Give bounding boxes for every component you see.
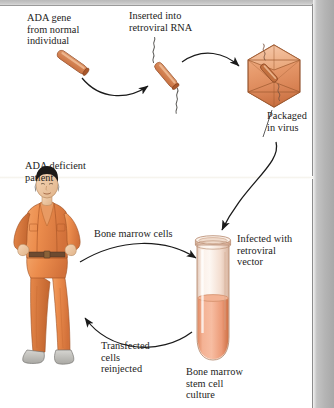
label-inserted-into-rna: Inserted into retroviral RNA (129, 10, 192, 33)
label-ada-gene: ADA gene from normal individual (27, 12, 79, 47)
patient-hand-left (18, 244, 29, 255)
label-infected-with-vector: Infected with retroviral vector (237, 233, 292, 268)
diagram-artwork (0, 0, 334, 408)
patient-shoe-left (23, 350, 45, 363)
patient-shoe-right (55, 350, 74, 364)
rna-strand-lower (176, 89, 178, 114)
virus-capsid (248, 44, 300, 107)
label-stem-cell-culture: Bone marrow stem cell culture (186, 366, 243, 401)
patient-leg-left (31, 270, 50, 352)
arrow-virus-to-tube (222, 142, 277, 230)
label-ada-deficient-patient: ADA deficient patient (25, 160, 86, 183)
label-bone-marrow-cells: Bone marrow cells (94, 228, 173, 240)
patient-hand-right (65, 244, 76, 255)
label-transfected-cells-reinjected: Transfected cells reinjected (101, 340, 150, 375)
patient-figure (14, 166, 80, 364)
patient-hips (27, 256, 68, 278)
arrow-patient-to-tube (80, 243, 196, 262)
arrow-rna-to-virus (182, 53, 239, 66)
retroviral-rna-construct (153, 38, 180, 114)
figure-canvas: ADA gene from normal individual Inserted… (0, 0, 334, 408)
arrow-gene-to-rna (82, 78, 148, 96)
ada-gene-rod (56, 49, 90, 77)
test-tube (195, 236, 230, 360)
label-packaged-in-virus: Packaged in virus (267, 110, 307, 133)
rna-strand-upper (153, 38, 155, 63)
